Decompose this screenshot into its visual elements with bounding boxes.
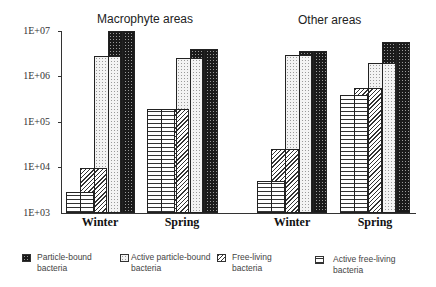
panel-title-macrophyte: Macrophyte areas [97, 12, 193, 26]
bar-macrophyte-spring-active-free-living [147, 109, 175, 213]
y-tick [58, 76, 62, 77]
panel-title-other: Other areas [298, 13, 361, 27]
y-tick-label: 1E+06 [2, 70, 50, 81]
y-tick [58, 122, 62, 123]
y-tick [58, 31, 62, 32]
x-category-label: Spring [345, 215, 405, 230]
y-tick-label: 1E+07 [2, 25, 50, 36]
legend-swatch-dark-icon [22, 254, 31, 262]
bar-other-winter-active-free-living [257, 181, 285, 213]
x-axis [61, 213, 416, 214]
x-category-label: Winter [262, 215, 322, 230]
legend-swatch-dots-icon [120, 254, 129, 262]
bar-other-spring-active-free-living [340, 95, 368, 213]
legend-item-active-free-living: Active free-livingbacteria [315, 254, 423, 276]
x-category-label: Spring [152, 215, 212, 230]
y-tick-label: 1E+05 [2, 116, 50, 127]
y-tick-label: 1E+03 [2, 207, 50, 218]
y-tick-label: 1E+04 [2, 161, 50, 172]
x-category-label: Winter [70, 215, 130, 230]
bar-macrophyte-winter-active-free-living [66, 192, 94, 213]
legend-swatch-hatch-icon [217, 254, 226, 262]
legend-swatch-horiz-icon [315, 256, 324, 264]
legend-item-particle-bound: Particle-boundbacteria [22, 252, 115, 274]
legend-item-active-particle-bound: Active particle-boundbacteria [120, 252, 221, 274]
y-tick [58, 167, 62, 168]
legend-item-free-living: Free-livingbacteria [217, 252, 310, 274]
